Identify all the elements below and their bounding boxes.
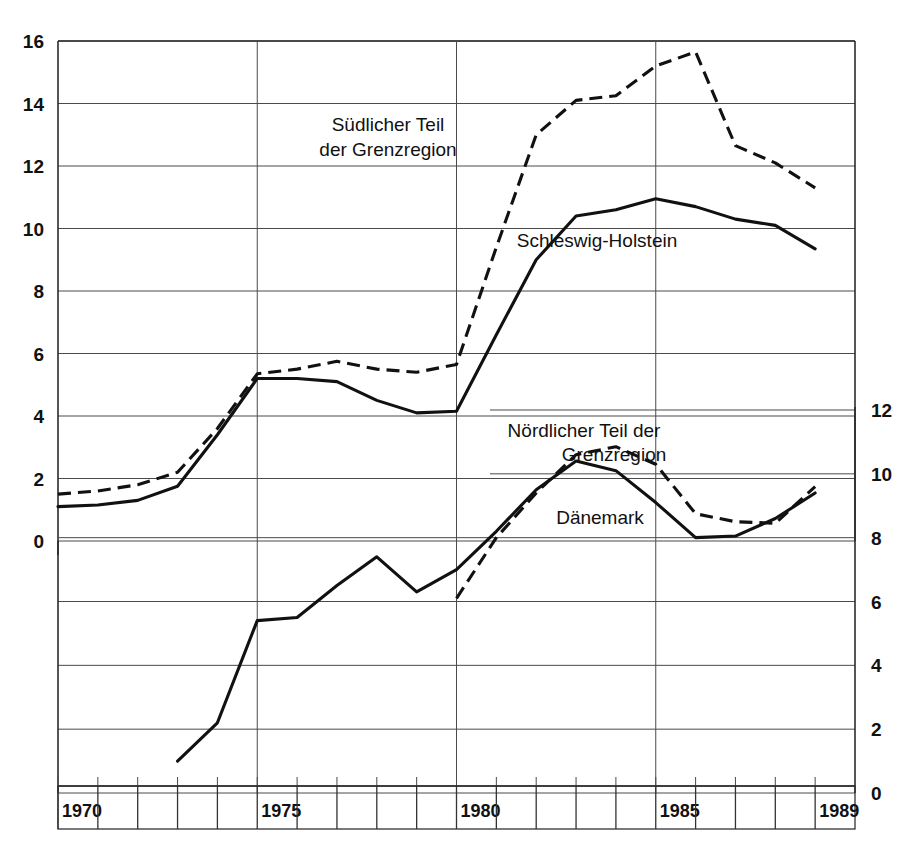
- bot-ytick-8: 8: [871, 528, 882, 549]
- bot-ytick-2: 2: [871, 719, 882, 740]
- top-ytick-4: 4: [33, 406, 44, 427]
- x-axis-label-1985: 1985: [660, 801, 700, 821]
- top-ytick-10: 10: [23, 219, 44, 240]
- series-annotation-2: Schleswig-Holstein: [517, 230, 678, 251]
- series-annotation-0: Südlicher Teil: [332, 114, 445, 135]
- series-annotation-1: der Grenzregion: [319, 139, 456, 160]
- chart-canvas: 0246810121416024681012Südlicher Teilder …: [0, 0, 908, 854]
- bot-ytick-0: 0: [871, 783, 882, 804]
- series-annotation-3: Nördlicher Teil der: [508, 420, 661, 441]
- top-ytick-16: 16: [23, 31, 44, 52]
- x-axis-label-1975: 1975: [261, 801, 301, 821]
- top-ytick-14: 14: [23, 94, 45, 115]
- top-ytick-8: 8: [33, 281, 44, 302]
- x-axis-label-1970: 1970: [62, 801, 102, 821]
- x-axis-label-1989: 1989: [819, 801, 859, 821]
- series-annotation-5: Dänemark: [556, 507, 644, 528]
- x-axis-label-1980: 1980: [461, 801, 501, 821]
- top-series-solid-1: [58, 199, 815, 507]
- bot-ytick-12: 12: [871, 400, 892, 421]
- top-ytick-2: 2: [33, 469, 44, 490]
- top-ytick-6: 6: [33, 344, 44, 365]
- bot-ytick-10: 10: [871, 464, 892, 485]
- chart-figure: 0246810121416024681012Südlicher Teilder …: [0, 0, 908, 854]
- bot-ytick-6: 6: [871, 592, 882, 613]
- bottom-series-solid-1: [178, 461, 816, 761]
- bot-ytick-4: 4: [871, 655, 882, 676]
- top-ytick-12: 12: [23, 156, 44, 177]
- series-annotation-4: Grenzregion: [562, 444, 667, 465]
- top-ytick-0: 0: [33, 531, 44, 552]
